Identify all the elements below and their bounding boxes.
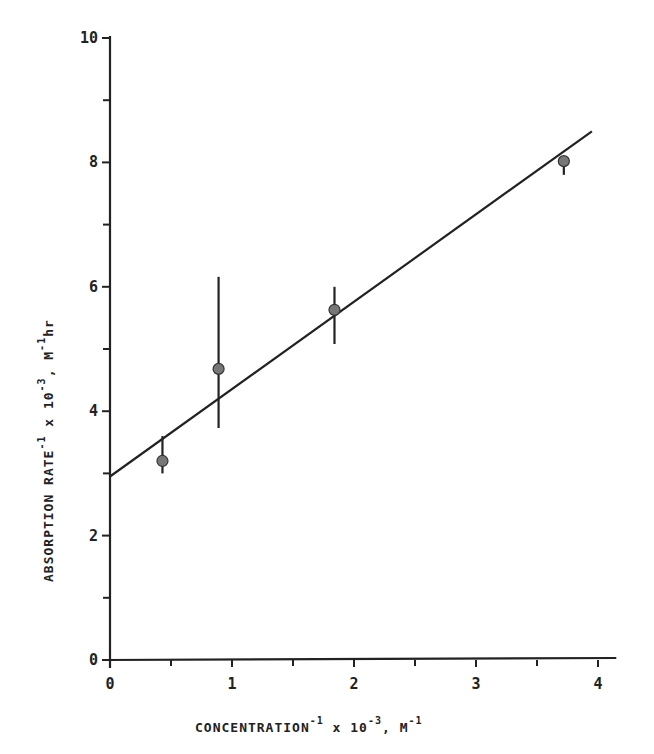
point-marker bbox=[157, 455, 168, 466]
regression-line bbox=[110, 131, 592, 476]
y-tick-label: 4 bbox=[89, 402, 98, 420]
x-tick-label: 0 bbox=[105, 675, 114, 693]
x-tick-label: 3 bbox=[471, 675, 480, 693]
y-tick-label: 8 bbox=[89, 153, 98, 171]
point-marker bbox=[329, 304, 340, 315]
y-tick-label: 10 bbox=[80, 29, 98, 47]
y-axis-label: ABSORPTION RATE-1 x 10-3, M-1hr bbox=[36, 319, 56, 582]
x-tick-label: 2 bbox=[349, 675, 358, 693]
y-tick-label: 6 bbox=[89, 278, 98, 296]
fit-line bbox=[110, 131, 592, 476]
x-axis-label: CONCENTRATION-1 x 10-3, M-1 bbox=[195, 715, 423, 735]
y-axis-ticks: 0246810 bbox=[80, 29, 110, 669]
axes bbox=[104, 36, 616, 668]
data-point bbox=[213, 277, 224, 428]
y-tick-label: 2 bbox=[89, 527, 98, 545]
point-marker bbox=[558, 156, 569, 167]
data-point bbox=[558, 156, 569, 175]
x-axis-ticks: 01234 bbox=[105, 660, 602, 693]
y-tick-label: 0 bbox=[89, 651, 98, 669]
lineweaver-burk-plot: 01234 0246810 CONCENTRATION-1 x 10-3, M-… bbox=[0, 0, 654, 754]
x-tick-label: 4 bbox=[593, 675, 602, 693]
x-axis-line bbox=[104, 658, 616, 660]
data-point bbox=[329, 287, 340, 344]
data-points bbox=[157, 156, 569, 474]
x-tick-label: 1 bbox=[227, 675, 236, 693]
point-marker bbox=[213, 363, 224, 374]
